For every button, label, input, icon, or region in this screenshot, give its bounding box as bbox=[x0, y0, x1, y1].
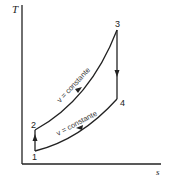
arrow-up-icon bbox=[33, 134, 38, 141]
point-2-label: 2 bbox=[31, 120, 36, 130]
x-axis-label: s bbox=[156, 167, 160, 177]
y-axis-label: T bbox=[12, 3, 19, 15]
ts-diagram: T s 1 2 3 4 v = constante v = constante bbox=[0, 0, 169, 178]
point-1-label: 1 bbox=[32, 152, 37, 162]
point-4-label: 4 bbox=[120, 98, 125, 108]
point-3-label: 3 bbox=[115, 19, 120, 29]
arrow-down-icon bbox=[115, 70, 120, 77]
